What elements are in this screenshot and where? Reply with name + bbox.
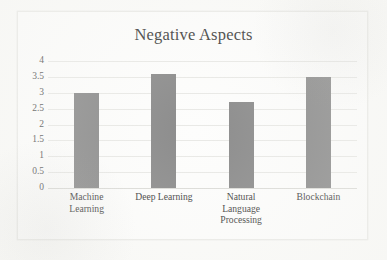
y-axis-tick-label: 1.5 (18, 136, 44, 146)
bar (229, 102, 254, 188)
axis-baseline (48, 188, 357, 189)
category-label-line: Learning (48, 203, 125, 215)
category-label: Deep Learning (125, 191, 202, 203)
gridline (48, 61, 357, 62)
bar (151, 74, 176, 188)
category-label: NaturalLanguageProcessing (203, 191, 280, 226)
category-label-line: Blockchain (280, 191, 357, 203)
category-label-line: Processing (203, 214, 280, 226)
y-axis-tick-label: 2.5 (18, 104, 44, 114)
category-label-line: Language (203, 203, 280, 215)
y-axis-tick-label: 3.5 (18, 72, 44, 82)
chart-frame: Negative Aspects 00.511.522.533.54 Machi… (17, 11, 368, 240)
plot-area (48, 61, 357, 188)
category-label-line: Deep Learning (125, 191, 202, 203)
y-axis-tick-label: 3 (18, 88, 44, 98)
bar (74, 93, 99, 188)
x-axis-category-labels: MachineLearningDeep LearningNaturalLangu… (48, 191, 357, 239)
y-axis-tick-label: 1 (18, 152, 44, 162)
bar (306, 77, 331, 188)
category-label-line: Machine (48, 191, 125, 203)
category-label: Blockchain (280, 191, 357, 203)
category-label: MachineLearning (48, 191, 125, 214)
y-axis-tick-label: 0 (18, 183, 44, 193)
category-label-line: Natural (203, 191, 280, 203)
y-axis-tick-label: 0.5 (18, 167, 44, 177)
y-axis-tick-label: 4 (18, 56, 44, 66)
y-axis-tick-label: 2 (18, 120, 44, 130)
y-axis-tick-labels: 00.511.522.533.54 (18, 61, 44, 188)
chart-title: Negative Aspects (18, 25, 369, 45)
